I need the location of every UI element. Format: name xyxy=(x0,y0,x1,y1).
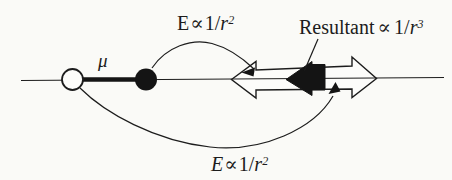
bottom-field-label: E∝1/r2 xyxy=(211,154,268,174)
top-field-label: E∝1/r2 xyxy=(177,13,234,33)
filled-charge-circle xyxy=(135,69,157,91)
top-leader-curve xyxy=(152,42,254,69)
radius-variable: r xyxy=(220,12,228,34)
fraction-numerator: 1/ xyxy=(394,16,410,38)
fraction-numerator: 1/ xyxy=(239,153,255,175)
proportional-icon: ∝ xyxy=(375,15,395,39)
exponent: 3 xyxy=(417,17,423,31)
open-charge-circle xyxy=(62,69,83,90)
proportional-icon: ∝ xyxy=(189,11,205,35)
exponent: 2 xyxy=(228,13,234,27)
field-symbol: E xyxy=(211,153,223,175)
mu-symbol: μ xyxy=(98,50,108,71)
proportional-icon: ∝ xyxy=(223,152,239,176)
resultant-arrow xyxy=(286,62,325,96)
bottom-leader-curve xyxy=(80,88,333,148)
exponent: 2 xyxy=(262,154,268,168)
radius-variable: r xyxy=(254,153,262,175)
resultant-word: Resultant xyxy=(299,16,375,38)
resultant-label: Resultant∝1/r3 xyxy=(299,17,423,37)
dipole-moment-label: μ xyxy=(98,51,108,70)
fraction-numerator: 1/ xyxy=(205,12,221,34)
field-symbol: E xyxy=(177,12,189,34)
dipole-field-figure: μ E∝1/r2 Resultant∝1/r3 E∝1/r2 xyxy=(0,0,452,180)
